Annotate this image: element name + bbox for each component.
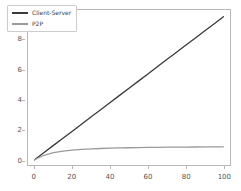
- chart-figure: 0246810 020406080100 Client-Server P2P: [0, 0, 241, 191]
- series-line-client-server: [35, 17, 224, 160]
- y-axis-ticks: 0246810: [0, 9, 22, 166]
- x-tick-label: 40: [105, 174, 114, 181]
- plot-lines: [28, 10, 230, 165]
- legend-entry-0: Client-Server: [12, 9, 71, 17]
- y-tick-mark: [22, 100, 25, 101]
- y-tick-mark: [22, 161, 25, 162]
- x-tick-mark: [72, 166, 73, 169]
- x-tick-label: 60: [144, 174, 153, 181]
- legend-label-p2p: P2P: [32, 21, 43, 27]
- chart-legend: Client-Server P2P: [7, 5, 77, 32]
- x-axis-ticks: 020406080100: [27, 169, 231, 183]
- x-tick-label: 20: [67, 174, 76, 181]
- x-tick-mark: [186, 166, 187, 169]
- x-tick-mark: [224, 166, 225, 169]
- x-tick-mark: [148, 166, 149, 169]
- legend-swatch-p2p: [12, 23, 28, 25]
- y-tick-mark: [22, 70, 25, 71]
- legend-label-client-server: Client-Server: [32, 10, 71, 16]
- series-line-p2p: [35, 147, 224, 160]
- legend-entry-1: P2P: [12, 20, 71, 28]
- x-tick-label: 0: [31, 174, 35, 181]
- x-tick-label: 100: [218, 174, 231, 181]
- plot-area: [27, 9, 231, 166]
- legend-swatch-client-server: [12, 12, 28, 14]
- x-tick-mark: [34, 166, 35, 169]
- x-tick-mark: [110, 166, 111, 169]
- y-tick-mark: [22, 130, 25, 131]
- y-tick-mark: [22, 39, 25, 40]
- x-tick-label: 80: [182, 174, 191, 181]
